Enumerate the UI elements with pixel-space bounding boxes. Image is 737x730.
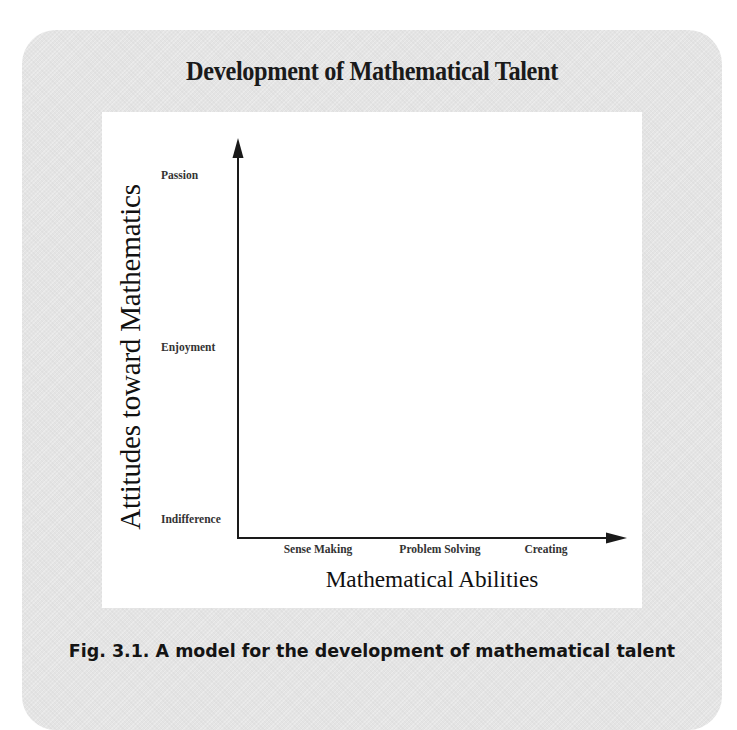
y-tick-indifference: Indifference <box>161 513 221 525</box>
y-axis-label: Attitudes toward Mathematics <box>114 184 147 530</box>
x-axis <box>237 533 627 544</box>
x-tick-problem-solving: Problem Solving <box>399 543 480 555</box>
x-tick-sense-making: Sense Making <box>284 543 353 555</box>
y-axis <box>233 138 244 538</box>
y-tick-passion: Passion <box>161 169 198 181</box>
x-axis-arrowhead-icon <box>606 533 627 544</box>
y-tick-enjoyment: Enjoyment <box>161 341 215 353</box>
x-tick-creating: Creating <box>524 543 567 555</box>
x-axis-label: Mathematical Abilities <box>243 566 621 593</box>
figure-caption: Fig. 3.1. A model for the development of… <box>33 640 712 661</box>
y-axis-arrowhead-icon <box>233 138 244 158</box>
